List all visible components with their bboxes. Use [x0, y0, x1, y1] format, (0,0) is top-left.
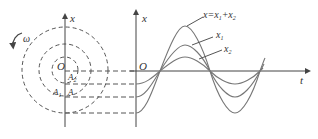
curve-sum — [136, 26, 265, 113]
point-a1-label: A1 — [52, 87, 62, 98]
wave-panel: x t O x=x1+x2 x1 x2 — [130, 9, 308, 127]
point-a-label: A — [67, 87, 74, 97]
leader-x2 — [199, 50, 222, 59]
omega-label: ω — [23, 33, 30, 44]
x-axis-label-right: x — [141, 12, 147, 24]
rotation-arrow-icon — [13, 33, 22, 46]
label-sum: x=x1+x2 — [202, 9, 236, 21]
leader-sum — [187, 17, 203, 26]
superposition-diagram: x O A2 A1 A ω x t O x=x1+x2 x1 x2 — [0, 0, 318, 139]
x-axis-label-left: x — [69, 12, 75, 24]
phasor-panel: x O A2 A1 A ω — [13, 12, 108, 127]
t-axis-label: t — [300, 74, 304, 86]
leader-x1 — [192, 37, 213, 45]
origin-label-right: O — [139, 60, 147, 72]
label-x1: x1 — [215, 29, 223, 41]
origin-label-left: O — [57, 60, 65, 72]
label-x2: x2 — [223, 43, 231, 55]
point-a2-label: A2 — [67, 72, 77, 83]
